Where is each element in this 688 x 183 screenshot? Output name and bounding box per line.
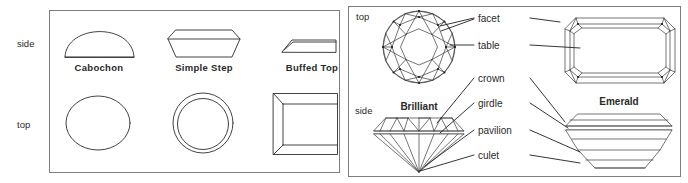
caption-buffed-top: Buffed Top [286, 62, 338, 73]
gem-cuts-figure: side top Cabochon Simple Step [0, 0, 688, 183]
simple-step-top-view [173, 93, 233, 153]
right-view-label-top: top [356, 11, 369, 22]
cabochon-dome-outline [65, 31, 134, 57]
cabochon-side-view [65, 31, 134, 57]
leader-culet-right [530, 155, 580, 163]
brilliant-top-view [382, 10, 456, 84]
caption-cabochon: Cabochon [75, 62, 124, 73]
part-label-pavilion: pavilion [478, 125, 512, 136]
leader-crown-right [530, 78, 565, 122]
part-label-table: table [478, 40, 500, 51]
cabochon-oval-outline [66, 96, 130, 150]
buffed-top-top-view [274, 94, 338, 155]
caption-simple-step: Simple Step [175, 62, 233, 73]
figure-canvas: side top Cabochon Simple Step [0, 0, 688, 183]
part-label-culet: culet [478, 150, 499, 161]
buffed-top-side-view [282, 40, 336, 52]
part-label-crown: crown [478, 73, 505, 84]
brilliant-side-view [374, 118, 464, 172]
emerald-girdle-band [566, 126, 672, 130]
leader-crown-left [437, 78, 474, 123]
left-panel: side top Cabochon Simple Step [17, 11, 340, 173]
emerald-top-view [565, 18, 675, 83]
right-panel: top side [349, 7, 681, 177]
emerald-pavilion-outline [566, 130, 672, 168]
cabochon-top-view [66, 96, 130, 150]
brilliant-girdle-band [374, 131, 464, 134]
leader-girdle-right [530, 103, 568, 128]
left-view-label-side: side [17, 38, 34, 49]
simple-step-outer-circle [173, 93, 233, 153]
simple-step-side-view [168, 30, 240, 57]
caption-brilliant: Brilliant [400, 101, 438, 112]
left-view-label-top: top [17, 119, 30, 130]
leader-facet-right [530, 18, 560, 22]
emerald-side-view [566, 114, 672, 168]
caption-emerald: Emerald [599, 96, 638, 107]
part-label-facet: facet [478, 13, 500, 24]
part-labels: facet table crown girdle pavilion culet [478, 13, 512, 161]
simple-step-outline [168, 30, 240, 57]
part-label-girdle: girdle [478, 98, 503, 109]
right-view-label-side: side [355, 105, 372, 116]
